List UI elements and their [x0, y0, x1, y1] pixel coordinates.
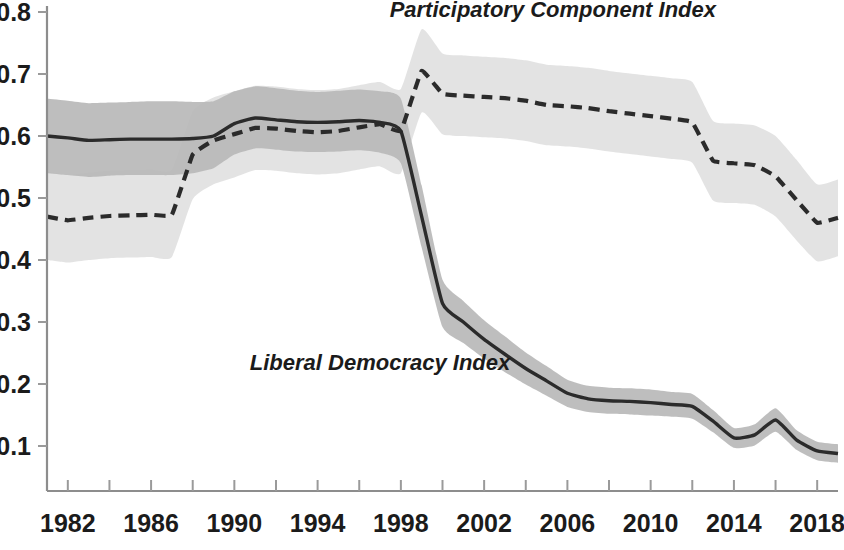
y-tick-label: 0.4: [0, 246, 31, 274]
x-tick-label: 1990: [207, 509, 263, 537]
x-tick-label: 1998: [373, 509, 429, 537]
confidence-bands-layer: [47, 29, 838, 463]
series-annotations: Participatory Component IndexLiberal Dem…: [250, 0, 717, 375]
x-tick-label: 2018: [789, 509, 844, 537]
series-annotation-participatory-component-index: Participatory Component Index: [390, 0, 717, 22]
y-tick-label: 0.6: [0, 122, 31, 150]
x-tick-label: 2002: [456, 509, 512, 537]
x-tick-label: 1994: [290, 509, 346, 537]
y-tick-label: 0.8: [0, 0, 31, 26]
x-tick-label: 1986: [123, 509, 179, 537]
x-tick-label: 2010: [623, 509, 679, 537]
series-annotation-liberal-democracy-index: Liberal Democracy Index: [250, 350, 511, 375]
y-tick-label: 0.1: [0, 432, 31, 460]
chart-canvas: 0.10.20.30.40.50.60.70.8 198219861990199…: [0, 0, 844, 550]
chart-container: 0.10.20.30.40.50.60.70.8 198219861990199…: [0, 0, 844, 550]
x-tick-label: 2014: [706, 509, 762, 537]
y-tick-labels: 0.10.20.30.40.50.60.70.8: [0, 0, 31, 460]
y-tick-label: 0.7: [0, 60, 31, 88]
y-tick-label: 0.5: [0, 184, 31, 212]
x-tick-label: 1982: [40, 509, 96, 537]
x-tick-label: 2006: [540, 509, 596, 537]
y-tick-label: 0.2: [0, 370, 31, 398]
y-tick-label: 0.3: [0, 308, 31, 336]
x-tick-labels: 1982198619901994199820022006201020142018: [40, 509, 844, 537]
